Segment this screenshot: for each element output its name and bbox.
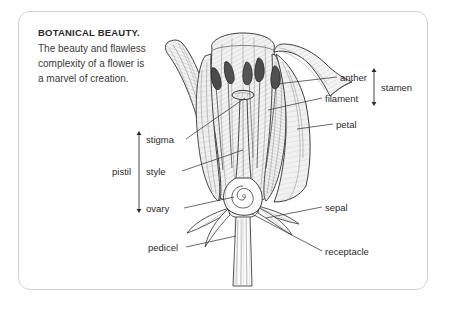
label-sepal: sepal <box>325 202 348 213</box>
stigma-shape <box>232 90 254 99</box>
stamen-bracket <box>372 68 377 106</box>
card-body-line-1: The beauty and flawless <box>38 43 146 54</box>
diagram-stage: BOTANICAL BEAUTY. The beauty and flawles… <box>0 0 458 312</box>
label-pedicel: pedicel <box>148 242 178 253</box>
label-stamen: stamen <box>381 82 412 93</box>
label-anther: anther <box>340 72 367 83</box>
label-petal: petal <box>336 119 357 130</box>
card-body-line-2: complexity of a flower is <box>38 58 144 69</box>
pedicel-shape <box>233 215 252 286</box>
label-style: style <box>146 166 166 177</box>
ovary-shape <box>224 178 263 215</box>
card-body-line-3: a marvel of creation. <box>38 73 129 84</box>
card-heading: BOTANICAL BEAUTY. <box>38 27 140 38</box>
pistil-bracket <box>137 131 142 213</box>
label-receptacle: receptacle <box>325 246 369 257</box>
label-pistil: pistil <box>112 166 131 177</box>
label-filament: filament <box>325 93 358 104</box>
label-stigma: stigma <box>146 134 174 145</box>
label-ovary: ovary <box>146 203 169 214</box>
